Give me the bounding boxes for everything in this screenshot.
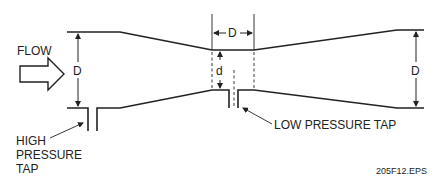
throat-length-label: D	[228, 26, 237, 40]
throat-diameter-label: d	[216, 64, 223, 78]
pipe-bottom-wall-inlet	[67, 108, 88, 131]
pipe-bottom-wall-diverging	[238, 90, 424, 108]
low-tap-leader-arrow	[243, 108, 272, 124]
flow-arrow-icon	[20, 58, 64, 90]
outlet-diameter-label: D	[411, 64, 420, 78]
high-tap-label-line1: HIGH	[16, 134, 46, 148]
flow-label: FLOW	[17, 44, 52, 58]
pipe-bottom-wall-converging	[97, 90, 229, 131]
high-tap-label-line2: PRESSURE	[16, 148, 82, 162]
high-tap-leader-arrow	[50, 123, 83, 138]
low-tap-label: LOW PRESSURE TAP	[274, 118, 396, 132]
venturi-diagram: FLOW D D d D HIGH PRESSURE TAP LOW PRESS…	[0, 0, 440, 184]
high-tap-label-line3: TAP	[16, 162, 38, 176]
inlet-diameter-label: D	[73, 64, 82, 78]
figure-id-label: 205F12.EPS	[376, 166, 427, 176]
